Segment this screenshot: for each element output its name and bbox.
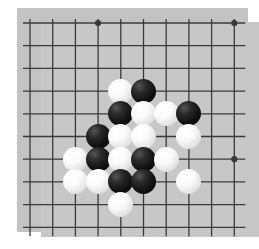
star-point-top-left	[95, 20, 101, 26]
white-stone[interactable]	[108, 147, 133, 172]
white-stone[interactable]	[86, 169, 111, 194]
white-stone[interactable]	[154, 147, 179, 172]
black-stone[interactable]	[131, 79, 156, 104]
white-stone[interactable]	[63, 147, 88, 172]
black-stone[interactable]	[131, 147, 156, 172]
white-stone[interactable]	[108, 79, 133, 104]
star-point-right	[231, 156, 237, 162]
black-stone[interactable]	[86, 124, 111, 149]
black-stone[interactable]	[86, 147, 111, 172]
go-board-screenshot	[0, 0, 259, 249]
white-stone[interactable]	[154, 101, 179, 126]
white-stone[interactable]	[131, 124, 156, 149]
star-point-top-right	[231, 20, 237, 26]
